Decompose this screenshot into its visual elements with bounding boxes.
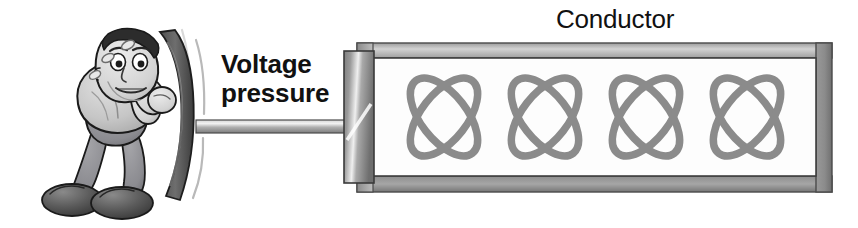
motion-line (196, 40, 204, 114)
conductor-label: Conductor (556, 5, 674, 34)
diagram-canvas (0, 0, 858, 228)
conductor-box (357, 43, 832, 192)
man-front-shoe (91, 187, 153, 219)
man-pupil-left (116, 61, 123, 68)
conductor-frame-right (816, 43, 832, 192)
piston-plate (344, 51, 374, 183)
motion-line (193, 138, 203, 198)
conductor-interior (373, 58, 816, 176)
man-pupil-right (138, 61, 145, 68)
voltage-pressure-label: Voltage pressure (221, 50, 329, 108)
figure-root: Voltage pressure Conductor (0, 0, 858, 228)
piston-rod (196, 120, 348, 133)
conductor-frame-bottom (357, 176, 832, 192)
conductor-frame-top (357, 43, 832, 58)
